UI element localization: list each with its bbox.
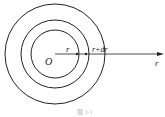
figure-caption: 图 1-1 [77, 109, 93, 116]
origin-label: O [45, 56, 52, 67]
inner-radius-label: r [66, 44, 70, 54]
outer-radius-label: r+dr [92, 45, 109, 54]
axis-label: r [155, 58, 159, 68]
arrow-head-icon [157, 52, 164, 56]
point-r [76, 53, 78, 55]
concentric-circles-diagram: O r r+dr r 图 1-1 [0, 0, 165, 117]
point-r-dr [85, 53, 87, 55]
